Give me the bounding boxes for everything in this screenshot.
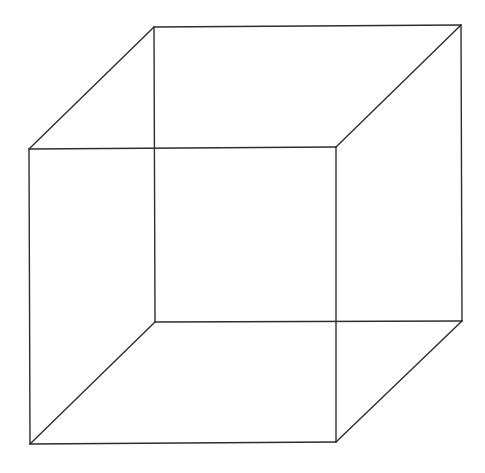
necker-cube-diagram xyxy=(0,0,485,473)
cube-edge-back-bottom-right-to-back-bottom-left xyxy=(155,321,462,322)
cube-edge-front-bottom-right-to-back-bottom-right xyxy=(336,321,462,442)
cube-edge-front-top-left-to-back-top-left xyxy=(29,27,154,149)
cube-edge-back-top-left-to-back-top-right xyxy=(154,25,461,27)
cube-edges xyxy=(29,25,462,444)
cube-edge-front-bottom-left-to-back-bottom-left xyxy=(30,322,155,444)
cube-edge-back-top-right-to-back-bottom-right xyxy=(461,25,462,321)
cube-edge-front-bottom-right-to-front-bottom-left xyxy=(30,442,336,444)
cube-edge-back-bottom-left-to-back-top-left xyxy=(154,27,155,322)
cube-edge-front-bottom-left-to-front-top-left xyxy=(29,149,30,444)
cube-edge-front-top-right-to-back-top-right xyxy=(336,25,461,147)
cube-edge-front-top-left-to-front-top-right xyxy=(29,147,336,149)
